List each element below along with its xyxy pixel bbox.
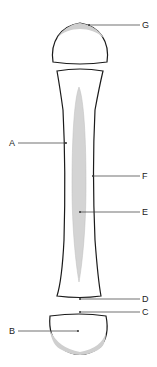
- label-G: G: [88, 20, 149, 30]
- svg-text:A: A: [9, 138, 15, 148]
- svg-text:B: B: [9, 326, 15, 336]
- svg-text:D: D: [142, 294, 149, 304]
- svg-text:E: E: [142, 207, 148, 217]
- top-epiphysis: [52, 23, 107, 64]
- svg-text:C: C: [142, 307, 149, 317]
- label-A: A: [9, 138, 67, 148]
- long-bone-diagram: A B C D E F G: [0, 0, 157, 367]
- diaphysis: [57, 69, 103, 298]
- bottom-epiphysis: [50, 314, 107, 355]
- svg-text:F: F: [142, 171, 148, 181]
- svg-text:G: G: [142, 20, 149, 30]
- label-F: F: [92, 171, 148, 181]
